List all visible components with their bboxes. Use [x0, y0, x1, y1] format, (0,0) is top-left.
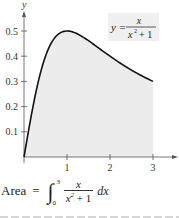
function-label: y = x x 2 + 1: [108, 13, 159, 41]
function-label-lhs: y =: [110, 21, 126, 33]
function-label-den-base: x: [127, 29, 133, 40]
truncated-text-line: [0, 210, 179, 218]
integral-sign-icon: ∫30: [48, 181, 54, 203]
y-tick-label: 0.4: [6, 51, 19, 62]
function-label-numerator: x: [136, 15, 142, 26]
differential: dx: [97, 184, 108, 199]
integrand-denominator: x2 + 1: [64, 190, 94, 204]
y-tick-label: 0.1: [6, 126, 19, 137]
y-tick-label: 0.3: [6, 76, 19, 87]
shaded-area: [24, 31, 153, 157]
area-formula: Area = ∫30 x x2 + 1 dx: [0, 176, 179, 206]
integrand-numerator: x: [74, 178, 83, 190]
function-label-den-exp: 2: [134, 28, 137, 34]
x-tick-label: 3: [151, 162, 156, 173]
equals-sign: =: [32, 183, 39, 199]
integrand-fraction: x x2 + 1: [64, 178, 94, 204]
y-tick-label: 0.5: [6, 26, 19, 37]
x-tick-label: 2: [108, 162, 113, 173]
function-label-den-rest: + 1: [139, 29, 152, 40]
upper-limit: 3: [57, 179, 61, 186]
area-label: Area: [1, 183, 26, 199]
x-tick-label: 1: [65, 162, 70, 173]
den-rest: + 1: [74, 192, 91, 204]
y-axis-label: y: [21, 0, 27, 10]
area-chart: 1230.10.20.30.40.5 y = x x 2 + 1 y: [0, 0, 179, 176]
lower-limit: 0: [53, 200, 57, 207]
y-tick-label: 0.2: [6, 101, 19, 112]
